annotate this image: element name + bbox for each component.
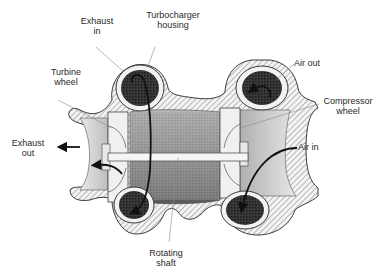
- exhaust-inlet-volute: [116, 65, 164, 111]
- turbocharger-diagram: [0, 0, 383, 280]
- leader-exhaust-in: [96, 47, 124, 72]
- label-exhaust-in: Exhaust in: [72, 16, 122, 36]
- leader-housing: [148, 47, 155, 66]
- label-exhaust-out: Exhaust out: [6, 138, 50, 158]
- exhaust-lower-volute: [114, 187, 154, 223]
- label-rotating-shaft: Rotating shaft: [140, 248, 192, 268]
- label-turbocharger-housing: Turbocharger housing: [133, 10, 213, 30]
- compressor-outlet-volute: [236, 66, 288, 110]
- label-compressor-wheel: Compressor wheel: [318, 96, 378, 116]
- label-air-in: Air in: [298, 142, 334, 152]
- label-air-out: Air out: [294, 58, 334, 68]
- label-turbine-wheel: Turbine wheel: [44, 67, 88, 87]
